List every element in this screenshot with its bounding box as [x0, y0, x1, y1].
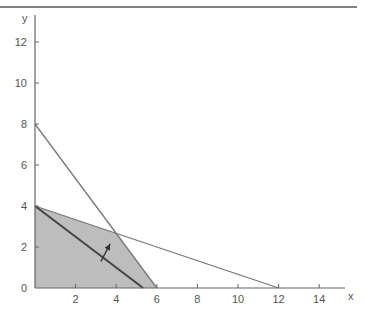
y-axis-label: y: [22, 12, 28, 24]
y-tick-label: 4: [21, 200, 27, 212]
y-tick-label: 8: [21, 118, 27, 130]
y-tick-label: 12: [15, 36, 27, 48]
x-tick-label: 2: [73, 293, 79, 305]
x-tick-label: 8: [194, 293, 200, 305]
x-tick-label: 6: [154, 293, 160, 305]
y-tick-label: 10: [15, 77, 27, 89]
y-tick-label: 6: [21, 159, 27, 171]
y-tick-label: 2: [21, 241, 27, 253]
x-tick-label: 10: [232, 293, 244, 305]
x-axis-label: x: [348, 290, 354, 302]
x-tick-label: 12: [272, 293, 284, 305]
feasible-region: [35, 206, 157, 288]
x-tick-label: 4: [113, 293, 119, 305]
y-tick-label: 0: [21, 282, 27, 294]
x-tick-label: 14: [313, 293, 325, 305]
linear-program-chart: 2468101214 024681012 y x: [0, 0, 372, 316]
